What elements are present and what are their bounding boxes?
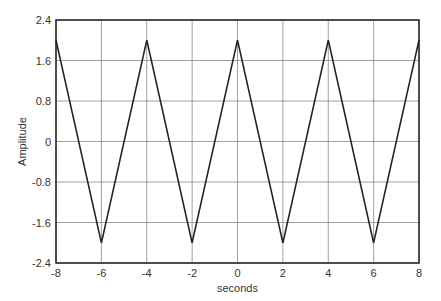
y-axis-ticks: 2.41.60.80-0.8-1.6-2.4 bbox=[32, 14, 51, 269]
y-axis-label: Amplitude bbox=[16, 117, 28, 166]
y-tick-label: 0.8 bbox=[36, 95, 51, 107]
x-tick-label: -8 bbox=[51, 267, 61, 279]
x-tick-label: 0 bbox=[234, 267, 240, 279]
x-tick-label: -4 bbox=[142, 267, 152, 279]
y-tick-label: 0 bbox=[45, 136, 51, 148]
x-tick-label: 4 bbox=[325, 267, 331, 279]
x-tick-label: -6 bbox=[96, 267, 106, 279]
x-tick-label: 8 bbox=[416, 267, 422, 279]
y-tick-label: -0.8 bbox=[32, 176, 51, 188]
y-tick-label: -1.6 bbox=[32, 217, 51, 229]
grid-lines bbox=[56, 20, 419, 263]
y-tick-label: -2.4 bbox=[32, 257, 51, 269]
x-axis-label: seconds bbox=[217, 282, 258, 294]
chart: -8-6-4-202468 2.41.60.80-0.8-1.6-2.4 sec… bbox=[0, 0, 441, 301]
x-tick-label: 6 bbox=[371, 267, 377, 279]
x-axis-ticks: -8-6-4-202468 bbox=[51, 267, 422, 279]
x-tick-label: 2 bbox=[280, 267, 286, 279]
y-tick-label: 1.6 bbox=[36, 55, 51, 67]
x-tick-label: -2 bbox=[187, 267, 197, 279]
y-tick-label: 2.4 bbox=[36, 14, 51, 26]
